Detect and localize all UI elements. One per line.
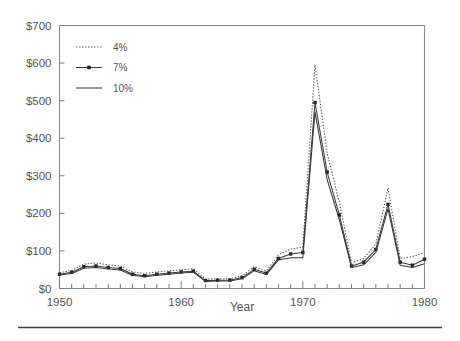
- x-tick-label: 1960: [168, 296, 194, 308]
- x-tick-label: 1970: [290, 296, 316, 308]
- y-tick-label: $400: [26, 132, 52, 144]
- x-tick-label: 1980: [412, 296, 438, 308]
- x-axis-title: Year: [230, 300, 254, 314]
- y-tick-label: $700: [26, 20, 52, 32]
- y-tick-label: $200: [26, 207, 52, 219]
- legend-swatch-marker: [87, 66, 91, 70]
- y-tick-label: $0: [39, 283, 52, 295]
- data-point-marker: [386, 203, 389, 206]
- data-point-marker: [289, 252, 292, 255]
- y-tick-label: $500: [26, 95, 52, 107]
- legend-item-label: 7%: [113, 62, 128, 73]
- y-tick-label: $300: [26, 170, 52, 182]
- legend-item-label: 4%: [113, 42, 128, 53]
- data-point-marker: [411, 264, 414, 267]
- y-tick-label: $100: [26, 245, 52, 257]
- chart-background: [0, 0, 460, 341]
- y-tick-label: $600: [26, 57, 52, 69]
- data-point-marker: [313, 101, 316, 104]
- chart-figure: $0$100$200$300$400$500$600$700 195019601…: [0, 0, 460, 341]
- x-tick-label: 1950: [47, 296, 73, 308]
- line-chart: $0$100$200$300$400$500$600$700 195019601…: [0, 0, 460, 341]
- data-point-marker: [423, 257, 426, 260]
- legend-item-label: 10%: [113, 83, 133, 94]
- data-point-marker: [58, 273, 61, 276]
